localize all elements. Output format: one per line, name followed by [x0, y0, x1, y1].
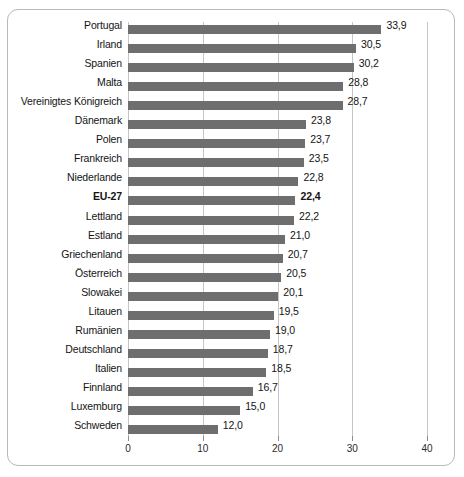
bar-category-label: Italien — [0, 363, 122, 374]
bar-value-label: 22,8 — [303, 172, 323, 183]
bar — [128, 425, 218, 434]
bar-row: Frankreich23,5 — [0, 152, 464, 173]
bar-row: Spanien30,2 — [0, 57, 464, 78]
bar-category-label: Österreich — [0, 268, 122, 279]
bar-value-label: 20,7 — [288, 249, 308, 260]
bar-row: Dänemark23,8 — [0, 114, 464, 135]
bar-value-label: 18,7 — [273, 344, 293, 355]
bar-category-label: Vereinigtes Königreich — [0, 96, 122, 107]
bar — [128, 101, 343, 110]
bar-row: Litauen19,5 — [0, 305, 464, 326]
bar-value-label: 23,7 — [310, 134, 330, 145]
bar — [128, 273, 281, 282]
bar-row: Schweden12,0 — [0, 419, 464, 440]
bar-value-label: 15,0 — [245, 401, 265, 412]
bar — [128, 368, 266, 377]
bar-row: Irland30,5 — [0, 38, 464, 59]
bar-value-label: 30,5 — [361, 39, 381, 50]
bar-chart-plot: 010203040Portugal33,9Irland30,5Spanien30… — [0, 0, 464, 477]
x-tick-label-30: 30 — [337, 443, 367, 454]
bar-category-label: Slowakei — [0, 287, 122, 298]
bar-value-label: 19,0 — [275, 325, 295, 336]
bar-category-label: Frankreich — [0, 153, 122, 164]
x-tick-label-40: 40 — [412, 443, 442, 454]
bar — [128, 120, 306, 129]
bar-category-label: Litauen — [0, 306, 122, 317]
bar-row: Vereinigtes Königreich28,7 — [0, 95, 464, 116]
bar — [128, 330, 270, 339]
bar — [128, 196, 295, 205]
bar-value-label: 12,0 — [223, 420, 243, 431]
bar — [128, 387, 253, 396]
x-tick-label-20: 20 — [263, 443, 293, 454]
bar — [128, 177, 298, 186]
bar-value-label: 30,2 — [359, 58, 379, 69]
bar — [128, 349, 268, 358]
bar-row: Finnland16,7 — [0, 381, 464, 402]
bar-row: Niederlande22,8 — [0, 171, 464, 192]
x-tick-label-0: 0 — [113, 443, 143, 454]
bar-category-label: Luxemburg — [0, 401, 122, 412]
bar-row: Lettland22,2 — [0, 210, 464, 231]
bar — [128, 216, 294, 225]
bar — [128, 292, 278, 301]
bar-row: Estland21,0 — [0, 229, 464, 250]
bar-row: Rumänien19,0 — [0, 324, 464, 345]
bar — [128, 254, 283, 263]
bar-value-label: 22,2 — [299, 211, 319, 222]
bar — [128, 63, 354, 72]
bar — [128, 25, 381, 34]
bar-row: Slowakei20,1 — [0, 286, 464, 307]
bar-value-label: 20,5 — [286, 268, 306, 279]
bar-value-label: 19,5 — [279, 306, 299, 317]
bar-category-label: Schweden — [0, 420, 122, 431]
bar-value-label: 23,8 — [311, 115, 331, 126]
bar-value-label: 18,5 — [271, 363, 291, 374]
bar-category-label: Rumänien — [0, 325, 122, 336]
bar-category-label: Irland — [0, 39, 122, 50]
bar-value-label: 23,5 — [309, 153, 329, 164]
bar-row: Deutschland18,7 — [0, 343, 464, 364]
bar — [128, 44, 356, 53]
bar-category-label: Finnland — [0, 382, 122, 393]
bar-value-label: 33,9 — [386, 20, 406, 31]
bar-category-label: Niederlande — [0, 172, 122, 183]
bar-category-label: Deutschland — [0, 344, 122, 355]
bar-row: Griechenland20,7 — [0, 248, 464, 269]
x-tick-label-10: 10 — [188, 443, 218, 454]
bar-row: Polen23,7 — [0, 133, 464, 154]
bar-category-label: Portugal — [0, 20, 122, 31]
bar — [128, 311, 274, 320]
bar-category-label: EU-27 — [0, 191, 122, 202]
bar-row: Malta28,8 — [0, 76, 464, 97]
bar — [128, 139, 305, 148]
bar — [128, 235, 285, 244]
bar-value-label: 28,7 — [348, 96, 368, 107]
bar-category-label: Griechenland — [0, 249, 122, 260]
bar-row: Österreich20,5 — [0, 267, 464, 288]
bar-row: Italien18,5 — [0, 362, 464, 383]
bar-row: EU-2722,4 — [0, 190, 464, 211]
bar-value-label: 28,8 — [348, 77, 368, 88]
bar — [128, 82, 343, 91]
bar-category-label: Malta — [0, 77, 122, 88]
bar — [128, 158, 304, 167]
bar-category-label: Estland — [0, 230, 122, 241]
bar-category-label: Polen — [0, 134, 122, 145]
bar — [128, 406, 240, 415]
bar-row: Luxemburg15,0 — [0, 400, 464, 421]
bar-category-label: Spanien — [0, 58, 122, 69]
bar-category-label: Dänemark — [0, 115, 122, 126]
bar-value-label: 21,0 — [290, 230, 310, 241]
bar-value-label: 16,7 — [258, 382, 278, 393]
bar-value-label: 22,4 — [300, 191, 320, 202]
bar-row: Portugal33,9 — [0, 19, 464, 40]
bar-value-label: 20,1 — [283, 287, 303, 298]
bar-category-label: Lettland — [0, 211, 122, 222]
